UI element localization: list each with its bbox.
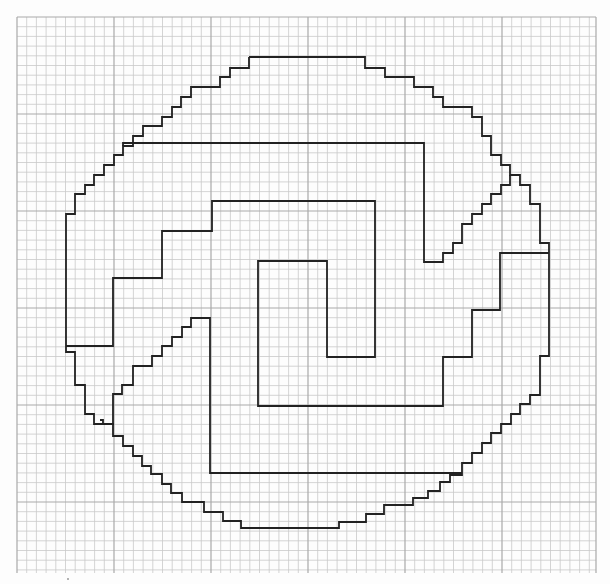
paper-background (0, 0, 610, 584)
paper-speck (67, 578, 69, 580)
graph-paper-sheet (0, 0, 610, 584)
